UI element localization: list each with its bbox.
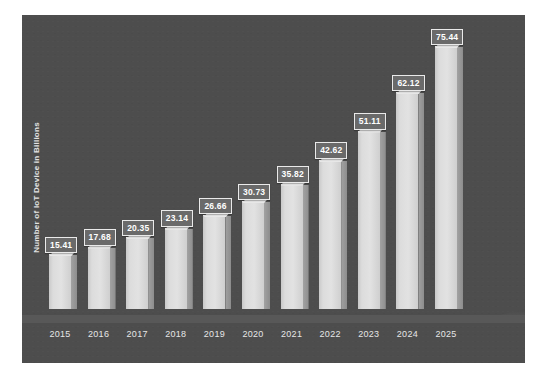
bar-body [242, 202, 270, 309]
bar-front-face [358, 131, 380, 310]
bar-side-face [187, 229, 193, 309]
bar-side-face [148, 238, 154, 309]
bar-2025[interactable] [435, 47, 463, 309]
x-tick-label-2022: 2022 [310, 329, 350, 339]
y-axis-title: Number of IoT Device in Billions [32, 88, 41, 288]
chart-screenshot: 15.4117.6820.3523.1426.6630.7335.8242.62… [0, 0, 547, 379]
value-label-2019: 26.66 [199, 198, 231, 215]
value-label-2021: 35.82 [277, 166, 309, 183]
bar-2016[interactable] [88, 248, 116, 309]
bar-body [126, 238, 154, 309]
x-tick-label-2021: 2021 [272, 329, 312, 339]
bar-2015[interactable] [49, 255, 77, 309]
x-tick-label-2025: 2025 [426, 329, 466, 339]
value-label-2023: 51.11 [354, 113, 386, 130]
bar-side-face [225, 216, 231, 309]
bar-2019[interactable] [203, 216, 231, 309]
bar-body [435, 47, 463, 309]
bar-body [88, 248, 116, 309]
value-label-2025: 75.44 [431, 29, 463, 46]
bar-side-face [418, 93, 424, 309]
bar-side-face [303, 185, 309, 309]
bar-side-face [110, 248, 116, 309]
x-tick-label-2018: 2018 [156, 329, 196, 339]
bar-body [281, 185, 309, 309]
bar-2022[interactable] [319, 161, 347, 309]
bar-2024[interactable] [396, 93, 424, 309]
bar-front-face [88, 247, 110, 309]
x-tick-label-2024: 2024 [387, 329, 427, 339]
bar-2023[interactable] [358, 132, 386, 310]
value-label-2017: 20.35 [122, 220, 154, 237]
bar-body [396, 93, 424, 309]
value-label-2020: 30.73 [238, 184, 270, 201]
bar-front-face [242, 201, 264, 309]
x-tick-label-2016: 2016 [79, 329, 119, 339]
x-tick-label-2017: 2017 [117, 329, 157, 339]
value-label-2024: 62.12 [392, 75, 424, 92]
bar-front-face [49, 254, 71, 309]
bar-front-face [165, 228, 187, 309]
bar-side-face [71, 255, 77, 309]
bar-front-face [281, 184, 303, 309]
x-tick-label-2019: 2019 [194, 329, 234, 339]
value-label-2022: 42.62 [315, 142, 347, 159]
value-label-2018: 23.14 [161, 210, 193, 227]
bar-side-face [380, 132, 386, 310]
bar-side-face [264, 202, 270, 309]
bars-layer: 15.4117.6820.3523.1426.6630.7335.8242.62… [22, 15, 525, 363]
bar-front-face [126, 237, 148, 309]
x-tick-label-2020: 2020 [233, 329, 273, 339]
bar-body [358, 132, 386, 310]
bar-2021[interactable] [281, 185, 309, 309]
bar-body [165, 229, 193, 309]
x-tick-label-2023: 2023 [349, 329, 389, 339]
bar-front-face [396, 92, 418, 309]
bar-front-face [319, 160, 341, 309]
chart-plot-area: 15.4117.6820.3523.1426.6630.7335.8242.62… [22, 15, 525, 363]
bar-2018[interactable] [165, 229, 193, 309]
value-label-2016: 17.68 [84, 229, 116, 246]
bar-side-face [341, 161, 347, 309]
bar-front-face [435, 46, 457, 309]
bar-front-face [203, 215, 225, 309]
bar-body [203, 216, 231, 309]
x-axis-labels: 2015201620172018201920202021202220232024… [22, 329, 525, 349]
x-tick-label-2015: 2015 [40, 329, 80, 339]
bar-2020[interactable] [242, 202, 270, 309]
bar-2017[interactable] [126, 238, 154, 309]
bar-body [319, 161, 347, 309]
bar-body [49, 255, 77, 309]
value-label-2015: 15.41 [45, 237, 77, 254]
bar-side-face [457, 47, 463, 309]
